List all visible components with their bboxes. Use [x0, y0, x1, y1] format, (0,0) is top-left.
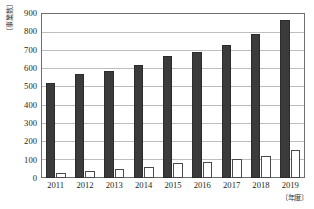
bar-group	[217, 13, 246, 178]
x-axis-tick-label: 2012	[70, 181, 99, 190]
bar-dark	[280, 20, 290, 178]
y-axis-tick-label: 700	[8, 45, 37, 54]
y-axis-tick-label: 600	[8, 64, 37, 73]
x-axis-tick-label: 2011	[41, 181, 70, 190]
bar-dark	[104, 71, 114, 178]
bar-dark	[134, 65, 144, 178]
bar-chart-figure: 〔事業数〕 0100200300400500600700800900 20112…	[0, 0, 314, 209]
x-axis-tick-label: 2018	[246, 181, 275, 190]
bar-group	[276, 13, 305, 178]
bar-dark	[251, 34, 261, 178]
x-axis-tick-label: 2016	[188, 181, 217, 190]
x-axis-tick-label: 2013	[100, 181, 129, 190]
x-axis-tick-label: 2019	[276, 181, 305, 190]
y-axis-tick-label: 200	[8, 137, 37, 146]
bar-dark	[192, 52, 202, 178]
bar-dark	[46, 83, 56, 178]
bar-white	[85, 171, 95, 178]
y-axis-tick-label: 400	[8, 100, 37, 109]
bar-white	[203, 162, 213, 178]
bar-white	[261, 156, 271, 178]
y-axis-tick-label: 900	[8, 9, 37, 18]
bar-group	[188, 13, 217, 178]
bar-dark	[75, 74, 85, 178]
y-axis-tick-label: 500	[8, 82, 37, 91]
bar-group	[246, 13, 275, 178]
bar-group	[129, 13, 158, 178]
y-axis-tick-label: 0	[8, 174, 37, 183]
bar-white	[173, 163, 183, 178]
x-axis-tick-labels: 201120122013201420152016201720182019	[41, 181, 305, 190]
x-axis-unit-label: 〔年度〕	[281, 194, 308, 201]
y-axis-tick-label: 100	[8, 155, 37, 164]
bar-white	[232, 159, 242, 178]
y-axis-tick-labels: 0100200300400500600700800900	[8, 13, 37, 178]
x-axis-tick-label: 2014	[129, 181, 158, 190]
bar-white	[115, 169, 125, 178]
bar-dark	[222, 45, 232, 178]
bar-group	[100, 13, 129, 178]
x-axis-tick-label: 2015	[158, 181, 187, 190]
bar-group	[41, 13, 70, 178]
bar-white	[291, 150, 301, 178]
bar-group	[70, 13, 99, 178]
bar-group	[158, 13, 187, 178]
bar-white	[56, 173, 66, 179]
bars-layer	[41, 13, 305, 178]
x-axis-tick-label: 2017	[217, 181, 246, 190]
y-axis-tick-label: 800	[8, 27, 37, 36]
y-axis-tick-label: 300	[8, 119, 37, 128]
bar-white	[144, 167, 154, 178]
bar-dark	[163, 56, 173, 178]
